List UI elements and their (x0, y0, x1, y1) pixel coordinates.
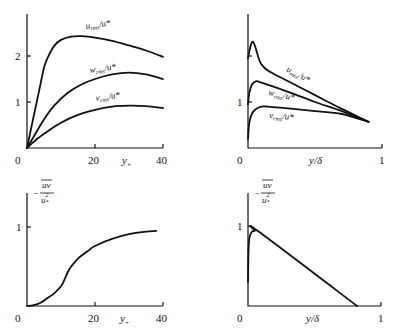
svg-text:u*2: u*2 (262, 192, 270, 205)
panel-top-right: 1 0 1 y/δ urms/u* wrms/u* vrms/u* (237, 14, 385, 166)
x-tick-label: 1 (379, 154, 385, 166)
x-axis-label: y+ (121, 154, 131, 168)
x-axis-label: y/δ (305, 312, 320, 324)
x-tick-label: 0 (237, 154, 243, 166)
svg-text:uv: uv (263, 180, 272, 190)
curve-label-v-rms: vrms/u* (269, 110, 295, 123)
x-axis-label: y/δ (308, 154, 323, 166)
y-tick-label: 1 (237, 220, 243, 232)
x-tick-label: 20 (88, 154, 100, 166)
y-tick-label: 1 (15, 96, 21, 108)
y-axis-label: − uv u*2 (33, 180, 54, 205)
svg-text:−: − (254, 188, 260, 198)
svg-text:u*2: u*2 (41, 192, 49, 205)
y-axis (27, 14, 163, 148)
panel-bottom-right: 1 0 1 y/δ − uv u*2 (237, 180, 384, 324)
curve-label-v-rms: vrms/u* (95, 90, 121, 104)
curve-label-u-rms: urms/u* (85, 18, 112, 32)
x-tick-label: 0 (15, 312, 21, 324)
curve-uv-stress (248, 226, 357, 306)
svg-text:uv: uv (42, 180, 51, 190)
x-axis-label: y+ (119, 312, 129, 326)
x-tick-label: 1 (378, 312, 384, 324)
svg-text:−: − (33, 188, 39, 198)
x-tick-label: 40 (156, 312, 168, 324)
y-axis-label: − uv u*2 (254, 180, 275, 205)
y-axis (27, 193, 163, 306)
y-axis (248, 14, 382, 148)
panel-top-left: 2 1 0 20 40 y+ urms/u* wrms/u* vrms/u* (15, 14, 168, 168)
x-tick-label: 0 (15, 154, 21, 166)
x-tick-label: 40 (156, 154, 168, 166)
curve-v-rms (248, 106, 369, 138)
y-tick-label: 1 (16, 221, 22, 233)
x-tick-label: 20 (88, 312, 100, 324)
y-axis (248, 193, 381, 306)
curve-v-rms (27, 106, 163, 148)
panel-bottom-left: 1 0 20 40 y+ − uv u*2 (15, 180, 168, 326)
x-tick-label: 0 (237, 312, 243, 324)
y-tick-label: 2 (15, 50, 21, 62)
y-tick-label: 1 (237, 96, 243, 108)
figure-canvas: 2 1 0 20 40 y+ urms/u* wrms/u* vrms/u* 1… (0, 0, 398, 334)
curve-uv-stress (27, 231, 156, 306)
